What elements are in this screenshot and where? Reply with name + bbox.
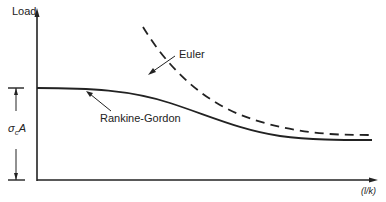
x-axis-label: (l/k) xyxy=(361,186,376,196)
x-axis xyxy=(37,178,378,183)
rankine-gordon-label: Rankine-Gordon xyxy=(100,112,181,124)
rankine-gordon-leader-arrow xyxy=(86,91,111,111)
euler-label: Euler xyxy=(179,48,205,60)
sigma-symbol: σ xyxy=(8,122,15,134)
y-axis-label: Load xyxy=(12,5,36,17)
sigma-c-a-label: σcA xyxy=(8,122,26,137)
load-vs-slenderness-diagram xyxy=(0,0,386,202)
area-symbol: A xyxy=(19,122,26,134)
y-axis xyxy=(35,8,40,181)
